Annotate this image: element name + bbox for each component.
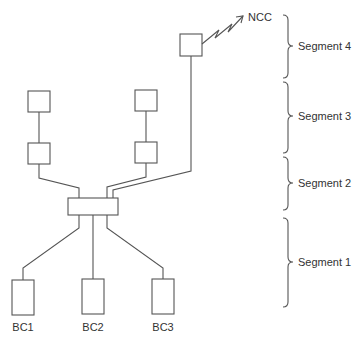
ncc-label: NCC (248, 11, 272, 23)
bc1-label: BC1 (12, 321, 33, 333)
segment-1-brace (283, 218, 293, 307)
segment-4-label: Segment 4 (298, 40, 351, 52)
left-mid-node (28, 143, 50, 164)
right-top-node (135, 90, 157, 111)
bc2-node (82, 279, 104, 314)
hub-to-bc1-link (23, 215, 79, 280)
network-diagram: NCC BC1 BC2 BC3 Segment 4 Segment 3 Segm… (0, 0, 361, 344)
right-mid-node (135, 142, 157, 163)
hub-node (68, 198, 118, 215)
segment-1-label: Segment 1 (298, 256, 351, 268)
hub-to-bc3-link (107, 215, 163, 279)
segment-2-label: Segment 2 (298, 177, 351, 189)
segment-3-brace (283, 82, 293, 153)
antenna-to-hub-link (113, 56, 191, 198)
bc3-label: BC3 (152, 321, 173, 333)
bc1-node (12, 280, 34, 315)
antenna-node (180, 34, 202, 56)
segment-2-brace (283, 157, 293, 210)
bc2-label: BC2 (82, 321, 103, 333)
left-top-node (28, 91, 50, 112)
left-to-hub-link (39, 164, 79, 198)
segment-4-brace (283, 15, 293, 78)
bc3-node (152, 279, 174, 314)
wireless-link-icon (202, 16, 243, 44)
segment-3-label: Segment 3 (298, 110, 351, 122)
